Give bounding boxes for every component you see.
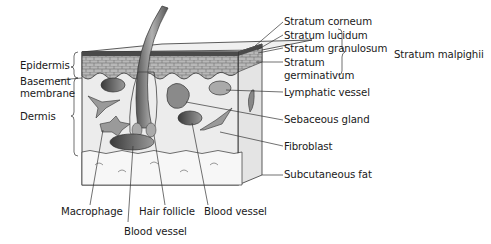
label-stratum-malpighii: Stratum malpighii: [394, 49, 484, 61]
block-top-face: [82, 40, 312, 52]
epidermis-layer: [82, 52, 238, 79]
label-basement-membrane-line2: membrane: [20, 88, 75, 100]
label-macrophage: Macrophage: [61, 206, 123, 218]
label-stratum-granulosum: Stratum granulosum: [284, 43, 387, 55]
subcutaneous-fat-layer: [82, 151, 242, 186]
label-stratum-germinativum-line2: germinativum: [284, 70, 354, 82]
label-basement-membrane-line1: Basement: [20, 76, 71, 88]
label-epidermis: Epidermis: [20, 60, 70, 72]
label-dermis: Dermis: [20, 111, 56, 123]
label-blood-vessel-right: Blood vessel: [204, 206, 267, 218]
label-sebaceous-gland: Sebaceous gland: [284, 114, 370, 126]
skin-cross-section-diagram: Epidermis Basement membrane Dermis Strat…: [0, 0, 491, 244]
label-blood-vessel-bottom: Blood vessel: [124, 226, 187, 238]
label-fibroblast: Fibroblast: [284, 141, 332, 153]
label-stratum-lucidum: Stratum lucidum: [284, 30, 368, 42]
label-subcutaneous-fat: Subcutaneous fat: [284, 169, 372, 181]
label-stratum-germinativum-line1: Stratum: [284, 57, 325, 69]
label-stratum-corneum: Stratum corneum: [284, 16, 372, 28]
label-lymphatic-vessel: Lymphatic vessel: [284, 87, 370, 99]
label-hair-follicle: Hair follicle: [139, 206, 195, 218]
